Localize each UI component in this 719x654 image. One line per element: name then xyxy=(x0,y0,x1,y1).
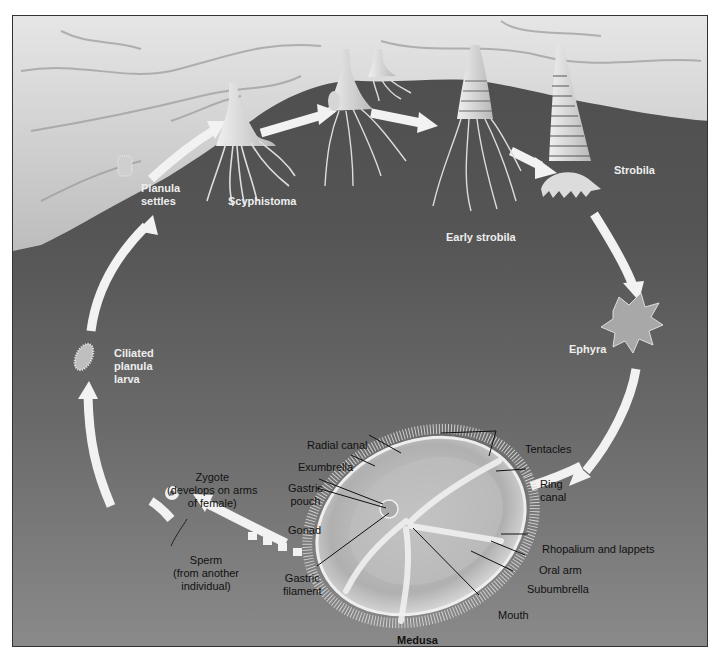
label-oral-arm: Oral arm xyxy=(539,564,582,577)
label-line: (from another xyxy=(173,567,239,580)
label-gastric-pouch: Gastric pouch xyxy=(288,482,323,508)
label-radial-canal: Radial canal xyxy=(307,439,368,452)
label-subumbrella: Subumbrella xyxy=(527,583,589,596)
label-line: Sperm xyxy=(173,554,239,567)
label-scyphistoma: Scyphistoma xyxy=(228,195,296,208)
ephyra xyxy=(601,293,663,353)
label-planula-settles: Planula settles xyxy=(141,182,180,208)
label-ciliated-planula-larva: Ciliated planula larva xyxy=(114,347,154,386)
rock-substrate xyxy=(13,16,708,251)
label-exumbrella: Exumbrella xyxy=(298,461,353,474)
label-line: of female) xyxy=(167,497,258,510)
label-line: Gastric xyxy=(283,572,322,585)
label-line: pouch xyxy=(288,495,323,508)
label-line: individual) xyxy=(173,580,239,593)
released-ephyra xyxy=(541,172,601,198)
label-medusa: Medusa xyxy=(397,634,438,647)
label-gastric-filament: Gastric filament xyxy=(283,572,322,598)
label-line: planula xyxy=(114,360,154,373)
label-rhopalium-lappets: Rhopalium and lappets xyxy=(542,543,655,556)
label-line: Zygote xyxy=(167,471,258,484)
label-line: filament xyxy=(283,585,322,598)
label-strobila: Strobila xyxy=(614,164,655,177)
label-sperm: Sperm (from another individual) xyxy=(173,554,239,593)
label-gonad: Gonad xyxy=(288,524,321,537)
label-ring-canal: Ring canal xyxy=(540,478,566,504)
label-tentacles: Tentacles xyxy=(525,443,571,456)
label-early-strobila: Early strobila xyxy=(446,231,516,244)
label-line: canal xyxy=(540,491,566,504)
label-ephyra: Ephyra xyxy=(569,343,606,356)
label-line: settles xyxy=(141,195,180,208)
label-line: Ring xyxy=(540,478,566,491)
label-line: Gastric xyxy=(288,482,323,495)
label-line: Ciliated xyxy=(114,347,154,360)
life-cycle-diagram: Planula settles Scyphistoma Early strobi… xyxy=(12,15,708,647)
label-line: (develops on arms xyxy=(167,484,258,497)
ciliated-planula xyxy=(71,341,97,373)
label-mouth: Mouth xyxy=(498,609,529,622)
label-zygote: Zygote (develops on arms of female) xyxy=(167,471,258,510)
label-line: larva xyxy=(114,373,154,386)
settled-planula xyxy=(118,156,132,176)
label-line: Planula xyxy=(141,182,180,195)
sperm-cell xyxy=(171,519,187,546)
